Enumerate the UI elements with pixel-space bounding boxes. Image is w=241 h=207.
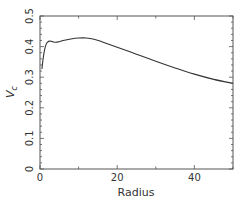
y-tick-label: 0: [24, 166, 35, 172]
x-tick-labels: 02040: [37, 172, 201, 183]
x-tick-label: 20: [111, 172, 124, 183]
x-tick-label: 40: [188, 172, 201, 183]
y-tick-label: 0.3: [24, 69, 35, 85]
x-axis-label: Radius: [118, 186, 155, 199]
y-tick-label: 0.5: [24, 8, 35, 24]
svg-text:Vc: Vc: [4, 85, 19, 98]
y-tick-label: 0.1: [24, 130, 35, 146]
y-tick-label: 0.4: [24, 39, 35, 55]
x-tick-label: 0: [37, 172, 43, 183]
y-tick-label: 0.2: [24, 100, 35, 116]
y-tick-labels: 00.10.20.30.40.5: [24, 8, 35, 172]
vc-curve: [42, 38, 233, 83]
y-axis-label: Vc: [4, 85, 19, 98]
rotation-curve-chart: 00.10.20.30.40.5 02040 Radius Vc: [0, 0, 241, 207]
